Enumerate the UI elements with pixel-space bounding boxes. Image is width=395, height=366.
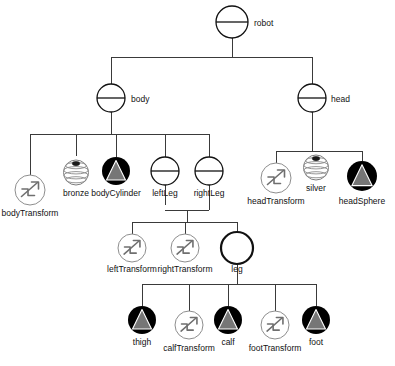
transform-icon xyxy=(175,311,203,339)
material-icon xyxy=(304,155,329,180)
node-label-foot: foot xyxy=(309,337,324,347)
geometry-icon xyxy=(128,306,156,334)
node-label-head: head xyxy=(331,94,350,104)
node-label-calfTransform: calfTransform xyxy=(163,343,215,353)
transform-icon xyxy=(171,234,199,262)
node-label-rightLeg: rightLeg xyxy=(194,188,225,198)
material-icon xyxy=(64,160,89,185)
node-calf[interactable] xyxy=(214,306,242,334)
node-layer: robotbodyheadbodyTransformbronzebodyCyli… xyxy=(2,6,386,353)
node-bronze[interactable] xyxy=(64,160,89,185)
transform-icon xyxy=(118,234,146,262)
node-bodyTransform[interactable] xyxy=(15,175,45,205)
node-silver[interactable] xyxy=(304,155,329,180)
node-leftTransform[interactable] xyxy=(118,234,146,262)
node-label-silver: silver xyxy=(306,183,326,193)
group-icon xyxy=(151,157,179,185)
node-label-thigh: thigh xyxy=(133,337,152,347)
transform-icon xyxy=(261,163,291,193)
node-label-leftLeg: leftLeg xyxy=(152,188,178,198)
edge-robot-to-body xyxy=(111,38,312,84)
node-label-bodyCylinder: bodyCylinder xyxy=(91,188,141,198)
node-label-body: body xyxy=(131,94,150,104)
node-label-footTransform: footTransform xyxy=(249,343,302,353)
node-foot[interactable] xyxy=(302,306,330,334)
node-robot[interactable] xyxy=(216,6,248,38)
geometry-icon xyxy=(214,306,242,334)
node-label-headTransform: headTransform xyxy=(247,196,304,206)
geometry-icon xyxy=(302,306,330,334)
geometry-icon xyxy=(102,157,130,185)
node-label-headSphere: headSphere xyxy=(339,196,386,206)
node-headSphere[interactable] xyxy=(347,161,377,191)
group-icon xyxy=(195,157,223,185)
node-label-bronze: bronze xyxy=(63,188,89,198)
scene-graph-diagram: robotbodyheadbodyTransformbronzebodyCyli… xyxy=(0,0,395,366)
node-label-calf: calf xyxy=(221,337,235,347)
node-label-rightTransform: rightTransform xyxy=(158,264,213,274)
node-bodyCylinder[interactable] xyxy=(102,157,130,185)
node-leg[interactable] xyxy=(221,232,253,264)
node-headTransform[interactable] xyxy=(261,163,291,193)
node-thigh[interactable] xyxy=(128,306,156,334)
node-label-leftTransform: leftTransform xyxy=(107,264,157,274)
node-label-leg: leg xyxy=(231,264,243,274)
transform-icon xyxy=(261,311,289,339)
group-icon xyxy=(216,6,248,38)
node-footTransform[interactable] xyxy=(261,311,289,339)
node-head[interactable] xyxy=(298,84,326,112)
scene-graph-canvas: robotbodyheadbodyTransformbronzebodyCyli… xyxy=(0,0,395,366)
node-rightLeg[interactable] xyxy=(195,157,223,185)
node-rightTransform[interactable] xyxy=(171,234,199,262)
transform-icon xyxy=(15,175,45,205)
node-body[interactable] xyxy=(97,84,125,112)
shared-icon xyxy=(221,232,253,264)
geometry-icon xyxy=(347,161,377,191)
group-icon xyxy=(97,84,125,112)
node-leftLeg[interactable] xyxy=(151,157,179,185)
node-label-robot: robot xyxy=(254,18,274,28)
group-icon xyxy=(298,84,326,112)
node-calfTransform[interactable] xyxy=(175,311,203,339)
node-label-bodyTransform: bodyTransform xyxy=(2,208,59,218)
